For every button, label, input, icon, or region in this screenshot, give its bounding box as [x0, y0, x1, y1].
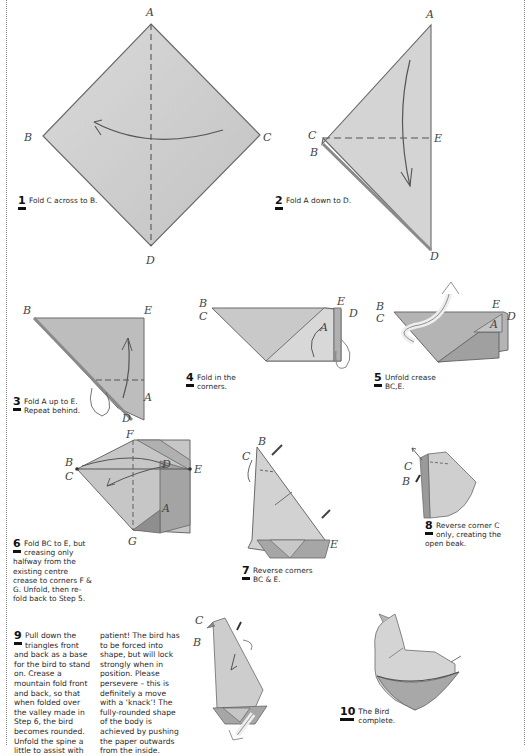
- step1-label-a: A: [145, 6, 154, 19]
- step10-illustration: [355, 600, 475, 710]
- step7-label-c: C: [242, 450, 251, 463]
- left-dotted-border: [6, 0, 7, 745]
- step2-number: 2: [275, 196, 283, 210]
- step1-illustration: A B C D: [40, 0, 270, 270]
- step1-label-c: C: [263, 131, 272, 144]
- step4-label-d: D: [348, 307, 358, 320]
- step8-label-b: B: [401, 475, 410, 488]
- step7-label-e: E: [329, 538, 338, 551]
- step10-text-line2: complete.: [358, 716, 395, 725]
- step6-label-g: G: [128, 535, 137, 548]
- step3-text-line1: Fold A up to E.: [24, 397, 78, 406]
- step6-caption: 6 Fold BC to E, butcreasing only halfway…: [13, 539, 92, 603]
- step8-text-line1: Reverse corner C: [436, 521, 499, 530]
- step5-text-line2: BC,E.: [385, 382, 404, 391]
- step5-illustration: B C E D A: [374, 282, 524, 367]
- step6-label-d: D: [161, 458, 171, 471]
- step2-label-d: D: [429, 250, 439, 263]
- step2-illustration: A C B E D: [300, 0, 500, 265]
- step8-caption: 8 Reverse corner Conly, creating the ope…: [425, 521, 501, 549]
- step5-number: 5: [374, 373, 382, 387]
- step2-label-b: B: [309, 146, 318, 159]
- step10-number: 10: [340, 707, 355, 721]
- right-dotted-border: [524, 0, 525, 745]
- step3-label-d: D: [121, 412, 131, 425]
- step7-text-line2: BC & E.: [253, 575, 281, 584]
- step5-label-a: A: [489, 318, 498, 331]
- step3-caption: 3 Fold A up to E.Repeat behind.: [13, 397, 80, 415]
- step10-text-line1: The Bird: [358, 707, 389, 716]
- step4-label-c: C: [199, 310, 208, 323]
- step8-text-line2: only, creating the: [436, 530, 501, 539]
- step2-label-a: A: [425, 8, 434, 21]
- step5-label-d: D: [506, 310, 516, 323]
- step2-caption: 2 Fold A down to D.: [275, 196, 351, 210]
- step10-caption: 10 The Birdcomplete.: [340, 707, 395, 725]
- step6-label-b: B: [64, 456, 73, 469]
- step7-illustration: B C E: [230, 440, 350, 570]
- step4-text-line1: Fold in the: [197, 373, 236, 382]
- step9-illustration: C B: [185, 610, 290, 745]
- step1-caption: 1 Fold C across to B.: [18, 196, 97, 210]
- step4-illustration: B C E D A: [196, 295, 366, 375]
- step9-label-c: C: [195, 614, 204, 627]
- step6-label-f: F: [125, 428, 134, 441]
- step4-label-a: A: [319, 321, 328, 334]
- step3-label-e: E: [143, 304, 152, 317]
- step7-label-b: B: [257, 435, 266, 448]
- step8-label-c: C: [404, 460, 413, 473]
- step9-text-col2: patient! The bird has to be forced into …: [100, 631, 192, 756]
- step9-number: 9: [14, 631, 22, 645]
- step8-illustration: C B: [398, 440, 488, 520]
- step6-text-line1: Fold BC to E, but: [24, 539, 85, 548]
- step5-label-c: C: [376, 312, 385, 325]
- step7-number: 7: [242, 566, 250, 580]
- step2-label-c: C: [308, 129, 317, 142]
- step9-label-b: B: [192, 636, 201, 649]
- step1-number: 1: [18, 196, 26, 210]
- step7-text-line1: Reverse corners: [253, 566, 313, 575]
- step7-caption: 7 Reverse cornersBC & E.: [242, 566, 313, 584]
- step6-text-rest: halfway from the existing centre crease …: [13, 557, 92, 603]
- step3-text-line2: Repeat behind.: [24, 406, 80, 415]
- step2-label-e: E: [433, 132, 442, 145]
- step5-text-line1: Unfold crease: [385, 373, 436, 382]
- step8-text-line3: open beak.: [425, 539, 501, 548]
- step1-text: Fold C across to B.: [29, 196, 97, 205]
- step2-text: Fold A down to D.: [286, 196, 351, 205]
- step6-illustration: F D B C E A G: [60, 430, 200, 550]
- step4-label-b: B: [198, 297, 207, 310]
- step6-label-c: C: [65, 470, 74, 483]
- step4-label-e: E: [336, 295, 345, 308]
- step5-caption: 5 Unfold creaseBC,E.: [374, 373, 436, 391]
- step3-number: 3: [13, 397, 21, 411]
- step6-label-e: E: [193, 463, 202, 476]
- step6-label-a: A: [161, 502, 170, 515]
- step4-text-line2: corners.: [197, 382, 227, 391]
- step3-label-a: A: [143, 391, 152, 404]
- step4-number: 4: [186, 373, 194, 387]
- step5-label-e: E: [491, 298, 500, 311]
- step8-number: 8: [425, 521, 433, 535]
- step4-caption: 4 Fold in thecorners.: [186, 373, 236, 391]
- step1-label-b: B: [23, 131, 32, 144]
- step1-label-d: D: [145, 254, 155, 267]
- step9-text-col1: 9 Pull down thetriangles front and back …: [14, 631, 106, 756]
- step6-number: 6: [13, 539, 21, 553]
- step3-label-b: B: [22, 304, 31, 317]
